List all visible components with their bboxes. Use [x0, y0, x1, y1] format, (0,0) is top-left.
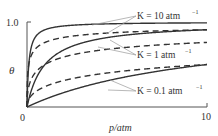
- leader-k10-dashed: [106, 16, 136, 34]
- x-axis-label: p/atm: [108, 122, 132, 133]
- annotation-k10-exponent: −1: [192, 9, 198, 15]
- annotation-k01-exponent: −1: [196, 84, 202, 90]
- langmuir-isotherm-chart: 1.0 0 10 θ p/atm K = 10 atm −1 K = 1 atm…: [0, 0, 218, 136]
- annotation-k1-text: K = 1 atm: [137, 50, 176, 60]
- y-tick-label-top: 1.0: [6, 17, 19, 28]
- annotation-k10-text: K = 10 atm: [137, 11, 181, 21]
- annotation-k10: K = 10 atm −1: [137, 9, 198, 21]
- x-tick-label-origin: 0: [20, 112, 25, 123]
- leader-k01-dashed: [108, 90, 136, 91]
- annotation-k01-text: K = 0.1 atm: [137, 86, 183, 96]
- annotation-k1: K = 1 atm −1: [137, 48, 191, 60]
- leader-k1-solid: [110, 40, 136, 55]
- annotation-k1-exponent: −1: [185, 48, 191, 54]
- chart-canvas: 1.0 0 10 θ p/atm K = 10 atm −1 K = 1 atm…: [0, 0, 218, 136]
- curve-k-1-dashed: [27, 42, 207, 107]
- leader-k01-solid: [110, 80, 136, 91]
- x-tick-label-end: 10: [201, 111, 211, 122]
- y-axis-label: θ: [9, 64, 15, 76]
- annotation-k01: K = 0.1 atm −1: [137, 84, 202, 96]
